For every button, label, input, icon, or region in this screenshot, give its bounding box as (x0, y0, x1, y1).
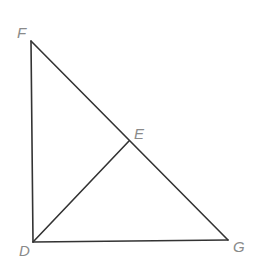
vertex-label-g: G (233, 238, 245, 255)
segment-dg (33, 240, 228, 242)
segment-fd (31, 41, 33, 242)
vertex-label-d: D (19, 242, 30, 259)
vertex-label-f: F (17, 24, 27, 41)
point-label-e: E (134, 125, 145, 142)
segment-de (33, 141, 129, 242)
triangle-diagram: F D G E (0, 0, 255, 273)
